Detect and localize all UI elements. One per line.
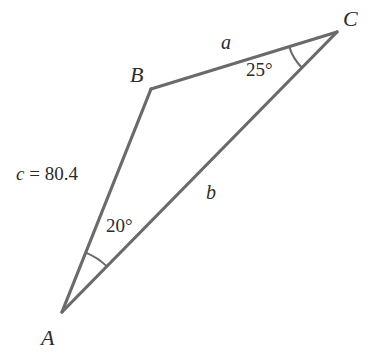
angle-c-arc (289, 47, 302, 68)
side-label-b: b (206, 182, 216, 202)
vertex-label-b: B (130, 64, 143, 86)
vertex-label-c: C (343, 8, 358, 30)
side-c-value: 80.4 (45, 163, 78, 184)
angle-label-c: 25° (246, 60, 273, 79)
side-c-equals: = (24, 163, 44, 184)
side-c-line (62, 89, 151, 312)
angle-label-a: 20° (106, 216, 133, 235)
angle-a-arc (86, 253, 107, 267)
triangle-sides (62, 32, 337, 312)
side-label-a: a (221, 32, 231, 52)
vertex-label-a: A (41, 327, 54, 349)
side-label-c-measure: c = 80.4 (16, 164, 78, 183)
triangle-diagram: A B C a b c = 80.4 20° 25° (0, 0, 372, 359)
